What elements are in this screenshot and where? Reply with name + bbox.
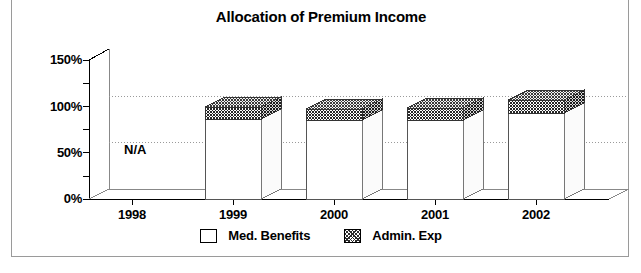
bar-2002-med-benefits-front <box>508 113 564 199</box>
bar-2001-med-benefits-front <box>407 120 463 199</box>
bar-2000-med-benefits-side <box>362 110 382 199</box>
bar-2001-admin-exp-front <box>407 108 463 120</box>
legend-entry-med-benefits[interactable]: Med. Benefits <box>200 228 310 243</box>
plot-area <box>12 0 630 257</box>
legend-swatch-admin-exp <box>344 229 361 243</box>
bar-group-1999[interactable] <box>205 97 281 199</box>
bar-group-2001[interactable] <box>407 98 483 199</box>
legend-entry-admin-exp[interactable]: Admin. Exp <box>344 228 442 243</box>
bar-1999-med-benefits-side <box>261 109 281 199</box>
bar-group-2002[interactable] <box>508 90 584 199</box>
bar-2002-admin-exp-front <box>508 100 564 113</box>
chart-legend: Med. Benefits Admin. Exp <box>12 228 630 243</box>
bar-2001-med-benefits-side <box>463 110 483 199</box>
legend-label-admin-exp: Admin. Exp <box>372 228 442 243</box>
bar-1999-admin-exp-front <box>205 107 261 119</box>
bar-2000-med-benefits-front <box>306 120 362 199</box>
x-axis-ticks <box>132 199 536 205</box>
legend-label-med-benefits: Med. Benefits <box>228 228 310 243</box>
legend-swatch-med-benefits <box>200 229 217 243</box>
y-axis-ticks <box>83 60 89 199</box>
chart-frame: Allocation of Premium Income 150% 100% 5… <box>11 0 629 257</box>
bar-group-2000[interactable] <box>306 99 382 199</box>
bar-2000-admin-exp-front <box>306 109 362 120</box>
bar-1999-med-benefits-front <box>205 119 261 199</box>
bar-2002-med-benefits-side <box>564 103 584 199</box>
